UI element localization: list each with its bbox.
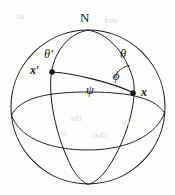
psi-label: ψ xyxy=(86,84,94,97)
sphere-diagram-figure: of and the in is that N θ′ θ ϕ ψ x′ x xyxy=(0,0,175,195)
scan-artifact-text: and xyxy=(104,16,117,25)
meridian-through-x-prime xyxy=(51,30,88,184)
scan-artifact-text: of xyxy=(16,12,24,21)
phi-label: ϕ xyxy=(113,70,119,83)
sphere-diagram-canvas xyxy=(0,0,175,195)
point-marker-x xyxy=(130,90,136,96)
equator-ellipse-front xyxy=(12,113,165,150)
scan-artifact-text: the xyxy=(70,114,82,123)
north-pole-label: N xyxy=(80,11,89,24)
point-marker-x-prime xyxy=(49,69,55,75)
scan-artifact-text: that xyxy=(92,131,106,140)
sphere-outline xyxy=(11,30,165,184)
meridian-through-x xyxy=(88,30,134,184)
scan-artifact-text: is xyxy=(60,129,67,138)
theta-label: θ xyxy=(120,48,126,61)
point-label-x-prime: x′ xyxy=(30,64,39,76)
point-label-x: x xyxy=(141,86,147,98)
theta-prime-label: θ′ xyxy=(44,48,53,61)
scan-artifact-text: in xyxy=(122,118,129,127)
